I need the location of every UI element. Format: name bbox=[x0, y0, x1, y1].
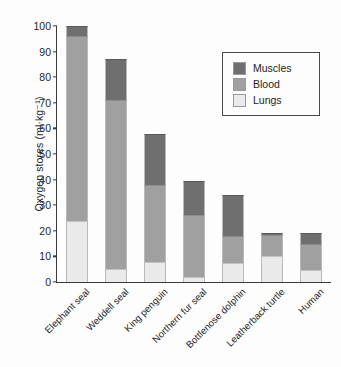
y-tick-label: 20 bbox=[39, 225, 57, 237]
bar-segment-muscles bbox=[300, 233, 322, 243]
bar-segment-lungs bbox=[222, 263, 244, 282]
bar-segment-blood bbox=[144, 185, 166, 262]
y-tick-label: 70 bbox=[39, 97, 57, 109]
bar-human bbox=[300, 233, 322, 282]
x-tick-label-elephant-seal: Elephant seal bbox=[42, 286, 91, 335]
legend-label-lungs: Lungs bbox=[253, 95, 282, 106]
bar-segment-blood bbox=[105, 100, 127, 269]
legend-item-muscles: Muscles bbox=[233, 60, 311, 76]
bar-elephant-seal bbox=[66, 26, 88, 282]
bar-segment-lungs bbox=[105, 269, 127, 282]
y-tick-label: 40 bbox=[39, 174, 57, 186]
y-tick-label: 0 bbox=[45, 276, 57, 288]
bar-segment-muscles bbox=[105, 59, 127, 100]
bar-segment-lungs bbox=[300, 270, 322, 282]
y-tick-label: 60 bbox=[39, 122, 57, 134]
legend-label-muscles: Muscles bbox=[253, 63, 292, 74]
bar-segment-muscles bbox=[66, 26, 88, 36]
bar-segment-blood bbox=[183, 215, 205, 276]
bar-segment-muscles bbox=[183, 181, 205, 216]
legend-swatch-muscles bbox=[233, 62, 246, 75]
bar-segment-lungs bbox=[261, 256, 283, 282]
chart-figure: Oxygen stores (ml·kg⁻¹) 0102030405060708… bbox=[0, 0, 341, 367]
bar-segment-blood bbox=[261, 235, 283, 257]
legend-swatch-lungs bbox=[233, 94, 246, 107]
legend-item-lungs: Lungs bbox=[233, 92, 311, 108]
bar-bottlenose-dolphin bbox=[222, 195, 244, 282]
bar-segment-muscles bbox=[222, 195, 244, 236]
y-tick-label: 50 bbox=[39, 148, 57, 160]
chart-legend: MusclesBloodLungs bbox=[222, 52, 320, 116]
legend-item-blood: Blood bbox=[233, 76, 311, 92]
bar-segment-lungs bbox=[183, 277, 205, 282]
bar-segment-blood bbox=[222, 236, 244, 263]
bar-leatherback-turtle bbox=[261, 233, 283, 282]
bar-king-penguin bbox=[144, 134, 166, 282]
bar-segment-blood bbox=[66, 36, 88, 220]
y-tick-label: 10 bbox=[39, 250, 57, 262]
bar-segment-muscles bbox=[144, 134, 166, 185]
bar-segment-lungs bbox=[66, 221, 88, 282]
legend-swatch-blood bbox=[233, 78, 246, 91]
bar-northern-fur-seal bbox=[183, 181, 205, 282]
bar-weddell-seal bbox=[105, 59, 127, 282]
legend-label-blood: Blood bbox=[253, 79, 280, 90]
y-tick-label: 100 bbox=[33, 20, 57, 32]
x-tick-label-human: Human bbox=[296, 286, 326, 316]
bar-segment-lungs bbox=[144, 262, 166, 282]
y-tick-label: 80 bbox=[39, 71, 57, 83]
bar-segment-blood bbox=[300, 244, 322, 271]
y-tick-label: 90 bbox=[39, 46, 57, 58]
y-tick-label: 30 bbox=[39, 199, 57, 211]
